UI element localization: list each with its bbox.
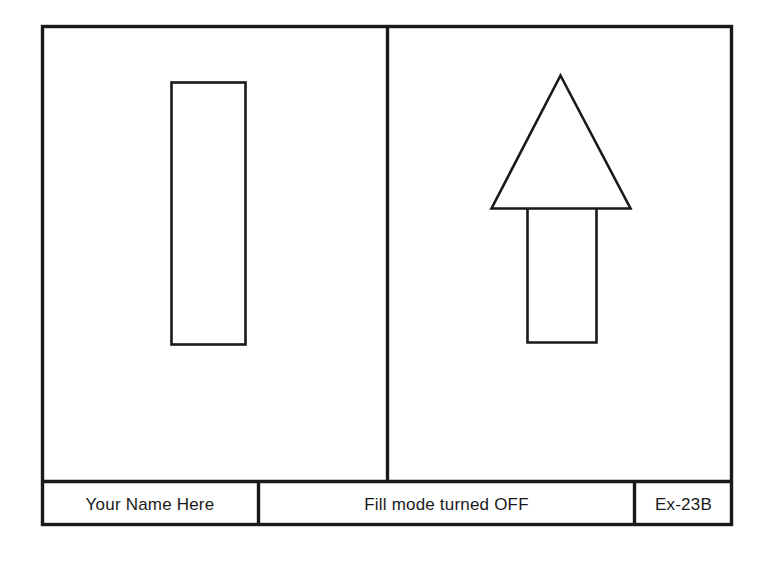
drawing-canvas <box>0 0 772 561</box>
title-block-name-cell: Your Name Here <box>44 484 256 524</box>
title-block-number-cell: Ex-23B <box>637 484 730 524</box>
rectangle-shape <box>172 83 246 345</box>
drawing-sheet: Your Name Here Fill mode turned OFF Ex-2… <box>0 0 772 561</box>
arrow-shaft-rectangle <box>528 209 597 343</box>
title-block-title-cell: Fill mode turned OFF <box>261 484 632 524</box>
arrow-head-triangle <box>492 76 631 209</box>
